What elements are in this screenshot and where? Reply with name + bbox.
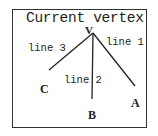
node-label-a: A bbox=[131, 97, 140, 109]
edge-label-line-2: line 2 bbox=[64, 75, 102, 86]
diagram-canvas: Current vertex V line 1 line 2 line 3 A … bbox=[0, 0, 158, 136]
vertex-label-v: V bbox=[85, 25, 93, 36]
node-label-c: C bbox=[40, 83, 49, 95]
edge-label-line-3: line 3 bbox=[28, 43, 66, 54]
edge-label-line-1: line 1 bbox=[106, 37, 144, 48]
edge-line-2 bbox=[92, 33, 93, 99]
node-label-b: B bbox=[88, 109, 96, 121]
